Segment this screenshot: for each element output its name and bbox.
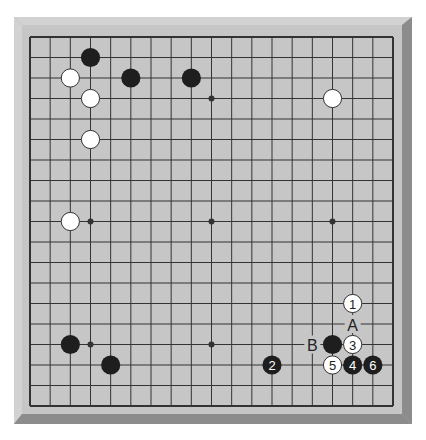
black-stone-disc — [101, 355, 120, 374]
white-stone-disc — [61, 69, 79, 87]
go-board: AB 123456 — [0, 0, 426, 440]
white-stone[interactable] — [61, 212, 79, 230]
star-point — [209, 219, 215, 225]
frame-bevel-left — [14, 17, 22, 424]
move-number-5: 5 — [329, 358, 336, 373]
black-stone-disc — [323, 335, 342, 354]
black-stone-disc — [182, 68, 201, 87]
black-stone-disc — [81, 48, 100, 67]
white-stone[interactable]: 5 — [323, 356, 341, 374]
star-point — [209, 342, 215, 348]
marker-label-a: A — [347, 317, 358, 334]
frame-bevel-right — [402, 17, 412, 424]
black-stone-disc — [61, 335, 80, 354]
white-stone[interactable] — [61, 69, 79, 87]
black-stone[interactable]: 4 — [343, 355, 362, 374]
black-stone[interactable] — [182, 68, 201, 87]
move-number-3: 3 — [349, 338, 356, 353]
move-number-1: 1 — [349, 297, 356, 312]
black-stone[interactable] — [101, 355, 120, 374]
black-stone[interactable] — [121, 68, 140, 87]
white-stone[interactable]: 3 — [344, 335, 362, 353]
white-stone-disc — [81, 89, 99, 107]
white-stone[interactable]: 1 — [344, 294, 362, 312]
black-stone[interactable]: 2 — [262, 355, 281, 374]
move-number-2: 2 — [268, 358, 275, 373]
star-point — [330, 219, 336, 225]
black-stone[interactable]: 6 — [363, 355, 382, 374]
white-stone[interactable] — [81, 89, 99, 107]
black-stone[interactable] — [81, 48, 100, 67]
white-stone[interactable] — [323, 89, 341, 107]
star-point — [209, 96, 215, 102]
move-number-6: 6 — [369, 358, 376, 373]
white-stone-disc — [61, 212, 79, 230]
frame-bevel-top — [14, 17, 412, 25]
move-number-4: 4 — [349, 358, 356, 373]
frame-bevel-bottom — [14, 414, 412, 424]
black-stone[interactable] — [323, 335, 342, 354]
white-stone-disc — [81, 130, 99, 148]
star-point — [88, 342, 94, 348]
white-stone-disc — [323, 89, 341, 107]
black-stone[interactable] — [61, 335, 80, 354]
marker-label-b: B — [307, 337, 318, 354]
black-stone-disc — [121, 68, 140, 87]
white-stone[interactable] — [81, 130, 99, 148]
star-point — [88, 219, 94, 225]
